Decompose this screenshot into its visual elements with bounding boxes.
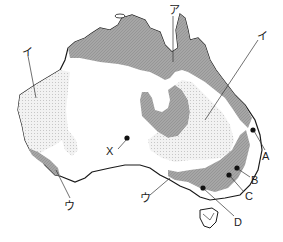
label-point-a: A bbox=[262, 150, 270, 162]
northern-island bbox=[115, 14, 125, 18]
label-point-c: C bbox=[245, 190, 253, 202]
tasmania bbox=[200, 208, 218, 228]
label-point-b: B bbox=[251, 174, 258, 186]
label-point-d: D bbox=[234, 216, 242, 228]
label-a-region: ア bbox=[169, 4, 180, 17]
label-i-west: イ bbox=[22, 46, 33, 59]
label-x: X bbox=[106, 145, 114, 157]
australia-map: ア イ イ X ウ ウ A B C D bbox=[0, 0, 283, 242]
label-u-west: ウ bbox=[64, 200, 75, 213]
label-i-east: イ bbox=[257, 30, 268, 43]
label-u-south: ウ bbox=[140, 192, 151, 205]
